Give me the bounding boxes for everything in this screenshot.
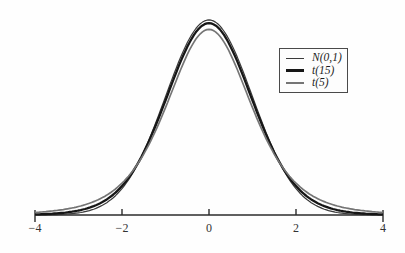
x-tick-label: −2 [116, 221, 129, 235]
legend-item: t(5) [286, 77, 342, 89]
legend-label: N(0,1) [312, 52, 342, 64]
x-tick-label: 0 [206, 221, 212, 235]
legend-line-sample [286, 58, 304, 59]
legend-line-sample [286, 82, 304, 84]
distribution-plot: −4−2024 [0, 0, 405, 253]
legend-item: t(15) [286, 65, 342, 77]
legend-label: t(5) [312, 77, 329, 89]
legend-line-sample [286, 69, 304, 71]
x-tick-label: 2 [293, 221, 299, 235]
x-tick-label: 4 [380, 221, 386, 235]
legend-label: t(15) [312, 65, 334, 77]
x-tick-label: −4 [29, 221, 42, 235]
legend: N(0,1) t(15) t(5) [279, 48, 348, 93]
legend-item: N(0,1) [286, 52, 342, 64]
distribution-figure: −4−2024 N(0,1) t(15) t(5) [0, 0, 405, 253]
